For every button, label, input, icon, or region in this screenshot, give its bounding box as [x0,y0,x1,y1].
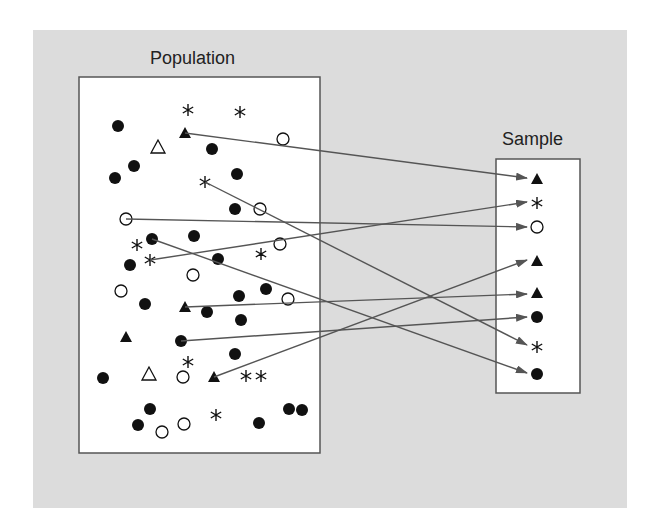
sample-filled-circle-icon [531,311,543,323]
population-filled-circle-icon [283,403,295,415]
population-filled-circle-icon [229,203,241,215]
population-label: Population [150,48,235,69]
population-open-circle-icon [178,418,190,430]
sample-box [496,159,580,393]
population-filled-circle-icon [229,348,241,360]
sample-label: Sample [502,129,563,150]
population-filled-circle-icon [124,259,136,271]
population-filled-circle-icon [112,120,124,132]
population-filled-circle-icon [296,404,308,416]
sample-open-circle-icon [531,221,543,233]
population-filled-circle-icon [233,290,245,302]
population-open-circle-icon [115,285,127,297]
population-filled-circle-icon [260,283,272,295]
sampling-diagram [0,0,661,527]
population-open-circle-icon [277,133,289,145]
population-filled-circle-icon [109,172,121,184]
population-open-circle-icon [254,203,266,215]
population-filled-circle-icon [128,160,140,172]
population-open-circle-icon [187,269,199,281]
population-open-circle-icon [177,371,189,383]
population-filled-circle-icon [144,403,156,415]
population-filled-circle-icon [235,314,247,326]
sample-filled-circle-icon [531,368,543,380]
population-filled-circle-icon [132,419,144,431]
population-filled-circle-icon [231,168,243,180]
population-filled-circle-icon [206,143,218,155]
population-filled-circle-icon [201,306,213,318]
population-open-circle-icon [156,426,168,438]
population-filled-circle-icon [253,417,265,429]
population-filled-circle-icon [97,372,109,384]
population-filled-circle-icon [188,230,200,242]
population-filled-circle-icon [139,298,151,310]
